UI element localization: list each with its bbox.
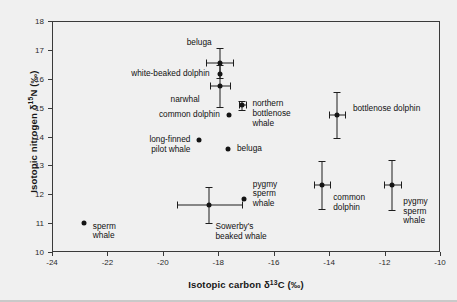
data-point-label: white-beaked dolphin <box>131 69 209 79</box>
data-point <box>225 147 230 152</box>
data-point-label: narwhal <box>171 95 200 105</box>
data-point <box>334 112 339 117</box>
x-tick-mark <box>440 252 441 256</box>
error-bar-cap <box>333 92 340 93</box>
y-tick-mark <box>48 79 52 80</box>
isotope-scatter-figure: -24-22-20-18-16-14-12-101011121314151617… <box>0 0 457 302</box>
data-point-label: long-finned pilot whale <box>149 135 190 154</box>
error-bar-cap <box>345 111 346 118</box>
data-point-label: bottlenose dolphin <box>353 104 420 114</box>
error-bar-cap <box>246 102 247 109</box>
y-tick-mark <box>48 137 52 138</box>
x-tick-label: -12 <box>379 258 391 267</box>
error-bar-cap <box>401 182 402 189</box>
data-point <box>240 103 245 108</box>
y-tick-mark <box>48 194 52 195</box>
x-tick-label: -16 <box>268 258 280 267</box>
data-point <box>207 203 212 208</box>
error-bar-cap <box>206 187 213 188</box>
y-tick-mark <box>48 108 52 109</box>
error-bar-cap <box>329 111 330 118</box>
error-bar-cap <box>233 59 234 66</box>
x-tick-mark <box>107 252 108 256</box>
y-tick-mark <box>48 252 52 253</box>
data-point <box>320 183 325 188</box>
data-point-label: pygmy sperm whale <box>253 180 277 209</box>
x-tick-mark <box>52 252 53 256</box>
error-bar-cap <box>319 209 326 210</box>
y-tick-mark <box>48 50 52 51</box>
error-bar-cap <box>210 82 211 89</box>
x-tick-label: -22 <box>102 258 114 267</box>
y-tick-mark <box>48 165 52 166</box>
data-point <box>81 220 86 225</box>
y-tick-label: 18 <box>22 17 44 26</box>
error-bar-cap <box>230 82 231 89</box>
x-tick-label: -14 <box>323 258 335 267</box>
error-bar-cap <box>239 110 246 111</box>
data-point <box>197 137 202 142</box>
y-tick-label: 10 <box>22 248 44 257</box>
data-point-label: northern bottlenose whale <box>252 99 290 128</box>
x-tick-mark <box>163 252 164 256</box>
x-tick-mark <box>274 252 275 256</box>
x-tick-mark <box>329 252 330 256</box>
error-bar-cap <box>216 48 223 49</box>
error-bar-cap <box>314 182 315 189</box>
y-tick-mark <box>48 223 52 224</box>
error-bar-cap <box>319 161 326 162</box>
error-bar-cap <box>177 202 178 209</box>
x-tick-mark <box>385 252 386 256</box>
error-bar-cap <box>242 202 243 209</box>
x-axis-title: Isotopic carbon δ13C (‰) <box>52 279 440 290</box>
x-tick-mark <box>218 252 219 256</box>
y-axis-title: Isotopic nitrogen δ15N (‰) <box>27 37 38 227</box>
error-bar-cap <box>389 210 396 211</box>
error-bar-cap <box>239 101 246 102</box>
error-bar-cap <box>389 160 396 161</box>
error-bar-cap <box>333 138 340 139</box>
y-tick-mark <box>48 21 52 22</box>
error-bar-cap <box>206 59 207 66</box>
x-tick-label: -18 <box>213 258 225 267</box>
error-bar-cap <box>330 182 331 189</box>
plot-area <box>52 21 440 252</box>
error-bar-cap <box>384 182 385 189</box>
x-tick-label: -10 <box>434 258 446 267</box>
error-bar-cap <box>206 223 213 224</box>
x-tick-label: -20 <box>157 258 169 267</box>
data-point-label: beluga <box>237 144 262 154</box>
error-bar-cap <box>216 107 223 108</box>
data-point <box>390 183 395 188</box>
data-point <box>241 196 246 201</box>
data-point-label: common dolphin <box>333 193 365 212</box>
data-point-label: beluga <box>187 38 212 48</box>
error-bar-cap <box>216 65 223 66</box>
data-point <box>217 83 222 88</box>
data-point <box>226 112 231 117</box>
data-point-label: Sowerby's beaked whale <box>215 222 266 241</box>
data-point-label: pygmy sperm whale <box>403 197 427 226</box>
data-point-label: sperm whale <box>93 222 116 241</box>
x-tick-label: -24 <box>46 258 58 267</box>
data-point-label: common dolphin <box>159 110 220 120</box>
